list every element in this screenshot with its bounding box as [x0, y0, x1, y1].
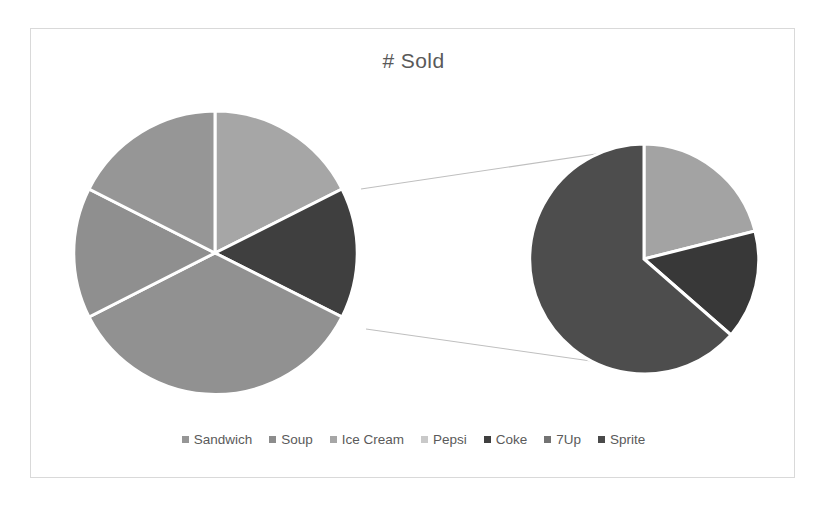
- pie-of-pie-plot[interactable]: [31, 29, 796, 479]
- legend-swatch-icon: [330, 436, 337, 443]
- legend-swatch-icon: [182, 436, 189, 443]
- chart-frame[interactable]: # Sold Sandwich Soup Ic: [30, 28, 795, 478]
- legend-label: Pepsi: [433, 433, 467, 447]
- primary-pie[interactable]: [74, 111, 357, 394]
- legend-item-pepsi[interactable]: Pepsi: [421, 433, 467, 447]
- legend-swatch-icon: [544, 436, 551, 443]
- secondary-pie[interactable]: [530, 144, 759, 374]
- legend-label: Sprite: [610, 433, 645, 447]
- legend-label: Coke: [496, 433, 528, 447]
- legend-label: 7Up: [556, 433, 581, 447]
- legend-item-coke[interactable]: Coke: [484, 433, 528, 447]
- legend-item-soup[interactable]: Soup: [269, 433, 313, 447]
- legend-swatch-icon: [269, 436, 276, 443]
- legend-label: Sandwich: [194, 433, 253, 447]
- legend-swatch-icon: [484, 436, 491, 443]
- legend-item-7up[interactable]: 7Up: [544, 433, 581, 447]
- legend-label: Ice Cream: [342, 433, 404, 447]
- legend-swatch-icon: [421, 436, 428, 443]
- chart-legend[interactable]: Sandwich Soup Ice Cream Pepsi Coke 7Up S…: [31, 433, 796, 447]
- legend-item-ice-cream[interactable]: Ice Cream: [330, 433, 404, 447]
- legend-label: Soup: [281, 433, 313, 447]
- legend-swatch-icon: [598, 436, 605, 443]
- legend-item-sprite[interactable]: Sprite: [598, 433, 645, 447]
- legend-item-sandwich[interactable]: Sandwich: [182, 433, 253, 447]
